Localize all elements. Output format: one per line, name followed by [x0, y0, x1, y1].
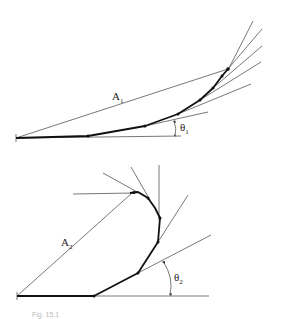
theta2-arc: [163, 261, 171, 295]
tangent-line: [213, 46, 262, 88]
figure-caption: Fig. 15.1: [32, 311, 59, 319]
bottom-curve: [17, 192, 160, 296]
tangent-line: [228, 21, 253, 70]
tangent-line: [178, 84, 251, 114]
tangent-line: [158, 195, 188, 242]
a1-label: A1: [112, 90, 124, 105]
tangent-line: [138, 235, 211, 273]
theta1-arc: [174, 121, 176, 136]
tangent-line: [73, 193, 133, 194]
chord-a2: [17, 193, 132, 296]
curve-nodes: [93, 191, 162, 298]
tangent-line: [131, 167, 150, 200]
theta1-label: θ1: [180, 121, 189, 136]
diagram-canvas: A1 θ1 A2 θ2 Fig. 15.1: [0, 0, 282, 319]
a2-label: A2: [61, 236, 73, 251]
theta2-label: θ2: [174, 271, 183, 286]
curve-nodes: [87, 67, 230, 137]
bottom-figure: A2 θ2: [17, 165, 211, 300]
tangent-line: [200, 62, 261, 100]
top-figure: A1 θ1: [16, 21, 262, 142]
